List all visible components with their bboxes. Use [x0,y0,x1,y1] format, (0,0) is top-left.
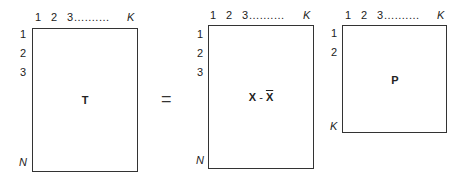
col-label-2: 2 [51,12,57,23]
col-label-k: K [303,10,310,21]
matrix-p-box: P [342,25,447,133]
col-label-3: 3 [377,10,383,21]
matrix-x-centered-label: X - X [249,91,273,103]
col-label-k: K [437,10,444,21]
row-label-1: 1 [197,29,203,40]
matrix-t-label: T [82,94,89,106]
col-label-2: 2 [226,10,232,21]
row-label-1: 1 [20,29,26,40]
row-label-k: K [330,121,337,132]
row-label-2: 2 [331,47,337,58]
col-label-3: 3 [242,10,248,21]
col-dots: .......... [384,10,420,21]
row-label-3: 3 [197,67,203,78]
col-label-2: 2 [361,10,367,21]
col-dots: .......... [249,10,285,21]
row-label-n: N [196,155,204,166]
matrix-p-label: P [391,74,398,86]
row-label-3: 3 [20,67,26,78]
matrix-t-box: T [32,28,138,172]
row-label-2: 2 [20,48,26,59]
row-label-2: 2 [197,48,203,59]
x-bar-symbol: X [266,91,273,103]
col-label-1: 1 [345,10,351,21]
row-label-1: 1 [331,28,337,39]
col-label-k: K [127,12,134,23]
col-dots: .......... [74,12,110,23]
col-label-1: 1 [210,10,216,21]
minus-symbol: - [256,91,266,103]
col-label-3: 3 [67,12,73,23]
matrix-x-centered-box: X - X [208,25,314,169]
equals-sign: = [161,90,172,108]
col-label-1: 1 [35,12,41,23]
row-label-n: N [19,157,27,168]
